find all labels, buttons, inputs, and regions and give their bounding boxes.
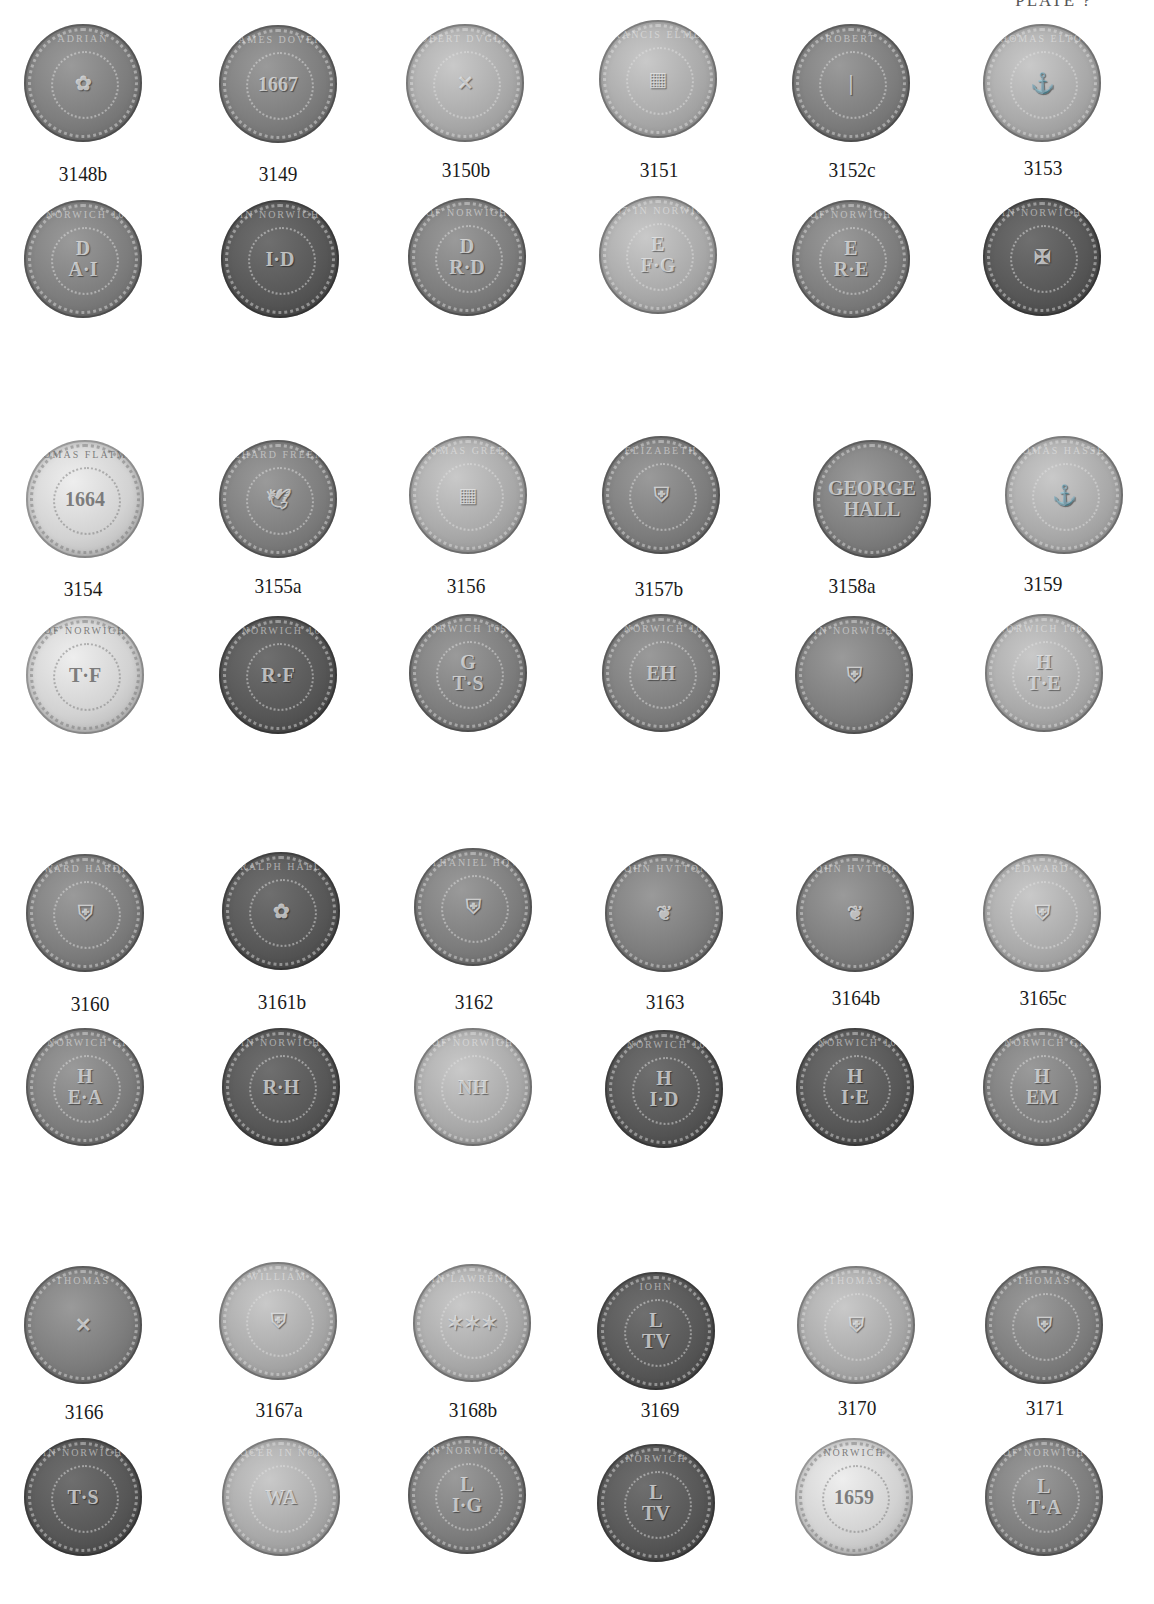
- catalogue-number: 3159: [988, 572, 1098, 597]
- coin-obverse-3149: IAMES DOVER1667: [219, 25, 337, 143]
- coin-reverse-3155a: OF NORWICH 1657R·F: [219, 616, 337, 734]
- coin-obverse-3171: THOMAS⛨: [985, 1266, 1103, 1384]
- catalogue-number: 3171: [990, 1396, 1100, 1421]
- coin-field: 1667: [219, 74, 337, 95]
- coin-field: H T·E: [985, 652, 1103, 694]
- coin-field: 1659: [795, 1487, 913, 1508]
- coin-field: G T·S: [409, 652, 527, 694]
- catalogue-number: 3149: [223, 162, 333, 187]
- coin-obverse-3163: IOHN HVTTON❦: [605, 854, 723, 972]
- coin-field: E F·G: [599, 234, 717, 276]
- coin-obverse-3160: EDWARD HARDING⛨: [26, 854, 144, 972]
- coin-reverse-3148b: IN NORWICH 1665D A·I: [24, 200, 142, 318]
- coin-reverse-3157b: IN NORWICH 1667EH: [602, 614, 720, 732]
- coin-group-4: THOMAS✕ WILLIAM⛨ IOHN LAWRENCE 1653✶✶✶ I…: [0, 1240, 1154, 1570]
- coin-field: ⛨: [983, 903, 1101, 924]
- catalogue-number: 3148b: [28, 162, 138, 187]
- coin-field: R·H: [222, 1077, 340, 1098]
- coin-reverse-3164b: IN NORWICH 1667H I·E: [796, 1028, 914, 1146]
- catalogue-number: 3167a: [224, 1398, 334, 1423]
- coin-reverse-3156: NORWICH 1656G T·S: [409, 614, 527, 732]
- coin-field: ⛨: [795, 665, 913, 686]
- coin-field: WA: [222, 1487, 340, 1508]
- coin-reverse-3163: IN NORWICH 1657H I·D: [605, 1030, 723, 1148]
- catalogue-number: 3162: [419, 990, 529, 1015]
- coin-field: GEORGE HALL: [813, 478, 931, 520]
- coin-obverse-3151: FRANCIS ELMER▦: [599, 20, 717, 138]
- catalogue-number: 3165c: [988, 986, 1098, 1011]
- coin-obverse-3158a: GEORGE HALL: [813, 440, 931, 558]
- coin-field: L TV: [597, 1482, 715, 1524]
- coin-reverse-3161b: IN NORWICHR·H: [222, 1028, 340, 1146]
- coin-obverse-3161b: RALPH HALL✿: [222, 852, 340, 970]
- coin-field: ✕: [24, 1315, 142, 1336]
- coin-field: ⚓: [1005, 485, 1123, 506]
- coin-field: EH: [602, 663, 720, 684]
- coin-obverse-3169: IOHNL TV: [597, 1272, 715, 1390]
- coin-field: I·D: [221, 249, 339, 270]
- coin-field: ⛨: [219, 1311, 337, 1332]
- coin-obverse-3152c: ROBERT|: [792, 24, 910, 142]
- catalogue-number: 3160: [35, 992, 145, 1017]
- coin-obverse-3162: NATHANIEL HOWLET⛨: [414, 848, 532, 966]
- coin-obverse-3164b: IOHN HVTTON❦: [796, 854, 914, 972]
- catalogue-number: 3166: [29, 1400, 139, 1425]
- catalogue-number: 3157b: [604, 577, 714, 602]
- coin-field: ⛨: [602, 485, 720, 506]
- coin-reverse-3160: OF NORWICH GROCERH E·A: [26, 1028, 144, 1146]
- coin-obverse-3159: THOMAS HASSET OF⚓: [1005, 436, 1123, 554]
- coin-field: 🕊: [219, 489, 337, 510]
- coin-obverse-3153: THOMAS ELTON⚓: [983, 24, 1101, 142]
- coin-reverse-3159: NORWICH 1665H T·E: [985, 614, 1103, 732]
- coin-field: L I·G: [408, 1474, 526, 1516]
- coin-reverse-3154: OF NORWICHT·F: [26, 616, 144, 734]
- coin-field: L T·A: [985, 1476, 1103, 1518]
- coin-field: ✿: [24, 73, 142, 94]
- coin-field: D A·I: [24, 238, 142, 280]
- coin-obverse-3170: THOMAS⛨: [797, 1266, 915, 1384]
- catalogue-number: 3152c: [797, 158, 907, 183]
- coin-field: ⛨: [26, 903, 144, 924]
- catalogue-number: 3170: [802, 1396, 912, 1421]
- coin-obverse-3155a: RICHARD FREEMAN🕊: [219, 440, 337, 558]
- catalogue-number: 3168b: [418, 1398, 528, 1423]
- coin-field: ▦: [599, 69, 717, 90]
- coin-reverse-3150b: OF NORWICHD R·D: [408, 198, 526, 316]
- coin-field: E R·E: [792, 238, 910, 280]
- coin-field: T·S: [24, 1487, 142, 1508]
- coin-reverse-3151: 1667 IN NORWICHE F·G: [599, 196, 717, 314]
- coin-field: ✶✶✶: [413, 1313, 531, 1334]
- coin-field: ❦: [605, 903, 723, 924]
- coin-reverse-3158a: IN NORWICH⛨: [795, 616, 913, 734]
- coin-obverse-3165c: EDWARD⛨: [983, 854, 1101, 972]
- coin-field: H I·E: [796, 1066, 914, 1108]
- coin-field: T·F: [26, 665, 144, 686]
- coin-reverse-3149: IN NORWICHI·D: [221, 200, 339, 318]
- coin-reverse-3170: NORWICH1659: [795, 1438, 913, 1556]
- coin-obverse-3157b: ELIZABETH⛨: [602, 436, 720, 554]
- coin-field: ⛨: [797, 1315, 915, 1336]
- coin-field: ⛨: [985, 1315, 1103, 1336]
- coin-field: L TV: [597, 1310, 715, 1352]
- coin-field: 1664: [26, 489, 144, 510]
- coin-obverse-3168b: IOHN LAWRENCE 1653✶✶✶: [413, 1264, 531, 1382]
- coin-field: ⚓: [983, 73, 1101, 94]
- catalogue-number: 3169: [605, 1398, 715, 1423]
- catalogue-number: 3150b: [411, 158, 521, 183]
- catalogue-number: 3164b: [801, 986, 911, 1011]
- coin-field: NH: [414, 1077, 532, 1098]
- catalogue-number: 3163: [610, 990, 720, 1015]
- coin-field: H EM: [983, 1066, 1101, 1108]
- coin-field: ✠: [983, 247, 1101, 268]
- coin-reverse-3162: OF NORWICHNH: [414, 1028, 532, 1146]
- coin-field: ✿: [222, 901, 340, 922]
- catalogue-number: 3151: [604, 158, 714, 183]
- coin-field: D R·D: [408, 236, 526, 278]
- catalogue-number: 3155a: [223, 574, 333, 599]
- coin-field: ✕: [406, 73, 524, 94]
- coin-field: ❦: [796, 903, 914, 924]
- coin-reverse-3167a: GROCER IN NORWICHWA: [222, 1438, 340, 1556]
- coin-field: H I·D: [605, 1068, 723, 1110]
- coin-obverse-3154: THOMAS FLATMAN1664: [26, 440, 144, 558]
- coin-reverse-3153: IN NORWICH✠: [983, 198, 1101, 316]
